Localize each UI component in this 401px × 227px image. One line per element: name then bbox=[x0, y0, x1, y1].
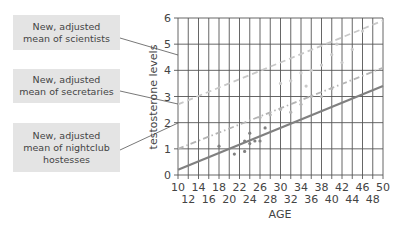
x-tick-label: 44 bbox=[345, 193, 359, 206]
x-tick-label: 48 bbox=[366, 193, 380, 206]
x-axis-label: AGE bbox=[269, 208, 292, 221]
y-tick-label: 6 bbox=[164, 12, 171, 25]
x-tick-label: 40 bbox=[325, 193, 339, 206]
data-point bbox=[320, 95, 323, 98]
data-point bbox=[361, 29, 364, 32]
x-tick-label: 20 bbox=[222, 193, 236, 206]
data-point bbox=[305, 84, 308, 87]
x-tick-label: 24 bbox=[243, 193, 257, 206]
x-tick-label: 32 bbox=[284, 193, 298, 206]
data-point bbox=[258, 139, 261, 142]
data-point bbox=[248, 132, 251, 135]
data-point bbox=[264, 126, 267, 129]
data-point bbox=[330, 53, 333, 56]
y-axis-label: testosterone levels bbox=[147, 44, 160, 149]
data-point bbox=[335, 43, 338, 46]
x-tick-label: 16 bbox=[202, 193, 216, 206]
data-point bbox=[320, 64, 323, 67]
axis-ticks: 0123456101418222630343842465012162024283… bbox=[164, 12, 390, 206]
x-tick-label: 28 bbox=[263, 193, 277, 206]
data-point bbox=[299, 71, 302, 74]
data-point bbox=[217, 145, 220, 148]
data-point bbox=[351, 48, 354, 51]
data-point bbox=[233, 152, 236, 155]
data-point bbox=[299, 103, 302, 106]
data-point bbox=[248, 142, 251, 145]
data-point bbox=[243, 150, 246, 153]
x-tick-label: 12 bbox=[181, 193, 195, 206]
data-point bbox=[289, 111, 292, 114]
x-tick-label: 36 bbox=[304, 193, 318, 206]
y-tick-label: 4 bbox=[164, 64, 171, 77]
testosterone-age-chart: 0123456101418222630343842465012162024283… bbox=[0, 0, 401, 227]
data-point bbox=[340, 61, 343, 64]
y-tick-label: 1 bbox=[164, 143, 171, 156]
y-tick-label: 0 bbox=[164, 169, 171, 182]
data-point bbox=[310, 69, 313, 72]
data-point bbox=[279, 82, 282, 85]
y-tick-label: 5 bbox=[164, 38, 171, 51]
data-point bbox=[289, 79, 292, 82]
